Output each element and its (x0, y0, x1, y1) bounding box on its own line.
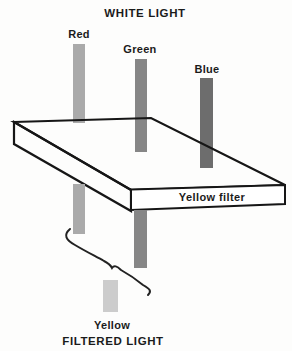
red-beam-label: Red (68, 28, 90, 40)
yellow-beam (103, 280, 118, 312)
blue-beam-label: Blue (194, 63, 219, 75)
red-beam-out (73, 184, 85, 234)
yellow-result-label: Yellow (94, 319, 130, 331)
diagram-canvas: WHITE LIGHT Red Green Blue Yellow filter… (0, 0, 292, 351)
white-light-title: WHITE LIGHT (104, 7, 185, 19)
red-beam-in (73, 44, 85, 123)
blue-beam-in (200, 78, 213, 168)
light-filter-diagram: WHITE LIGHT Red Green Blue Yellow filter… (0, 0, 292, 351)
green-beam-out (134, 210, 147, 268)
green-beam-label: Green (123, 43, 156, 55)
green-beam-in (135, 59, 147, 152)
filtered-light-title: FILTERED LIGHT (62, 335, 163, 347)
filter-label: Yellow filter (179, 191, 246, 203)
